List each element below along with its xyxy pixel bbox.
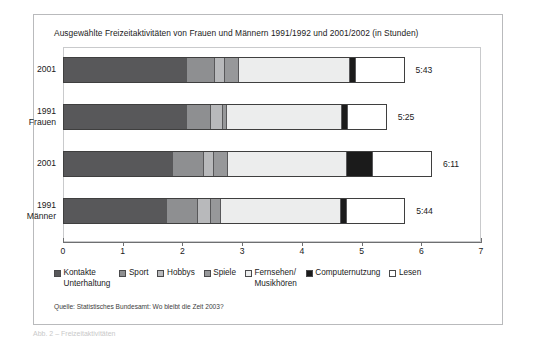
legend-swatch-icon [204,270,211,277]
bar-segment[interactable] [64,152,173,176]
bar-total-label: 5:44 [416,206,433,216]
y-axis-labels: 20011991Frauen20011991Männer [5,47,60,242]
legend-item[interactable]: Sport [119,268,148,279]
legend-item[interactable]: Spiele [204,268,236,279]
bar-segment[interactable] [356,58,403,82]
bar-segment[interactable] [211,105,223,129]
legend-item[interactable]: Computernutzung [306,268,381,279]
legend-item[interactable]: Hobbys [157,268,194,279]
y-axis-label: 2001 [37,158,56,169]
bar-segment[interactable] [214,152,227,176]
y-axis-label: 1991Männer [27,200,56,221]
bar-segment[interactable] [173,152,204,176]
bar-segment[interactable] [64,199,167,223]
x-axis-tick-label: 6 [419,246,424,256]
x-axis-tick-label: 7 [479,246,484,256]
x-axis-tick-label: 3 [240,246,245,256]
x-axis-tick-label: 1 [120,246,125,256]
bar-segment[interactable] [64,58,187,82]
x-axis-tick-label: 2 [180,246,185,256]
bar-row: 5:44 [63,198,481,224]
y-axis-label-line: Männer [27,211,56,222]
x-axis-tick-label: 4 [299,246,304,256]
legend-swatch-icon [245,270,252,277]
legend-label: Spiele [213,268,236,279]
legend-label: Hobbys [167,268,195,279]
x-axis-line [63,242,481,243]
bar-segment[interactable] [239,58,350,82]
figure-container: Ausgewählte Freizeitaktivitäten von Frau… [33,14,503,325]
bar-row: 5:43 [63,57,481,83]
stacked-bar[interactable] [63,151,432,177]
y-axis-label-line: Frauen [29,117,56,128]
bar-segment[interactable] [187,58,215,82]
x-axis-tick-label: 5 [359,246,364,256]
bar-segment[interactable] [204,152,214,176]
bar-segment[interactable] [347,152,373,176]
plot-area: 5:435:256:115:44 [63,47,481,242]
stacked-bar[interactable] [63,57,405,83]
legend-item[interactable]: Kontakte Unterhaltung [54,268,110,289]
legend-item[interactable]: Fernsehen/ Musikhören [245,268,297,289]
legend-label: Sport [129,268,149,279]
legend-swatch-icon [389,270,396,277]
legend-swatch-icon [157,270,164,277]
legend-item[interactable]: Lesen [389,268,421,279]
bar-row: 6:11 [63,151,481,177]
stacked-bar[interactable] [63,104,387,130]
legend-swatch-icon [119,270,126,277]
y-axis-label-line: 1991 [27,200,56,211]
x-axis-tick-labels: 01234567 [63,246,481,260]
legend-label: Fernsehen/ Musikhören [255,268,297,289]
bar-segment[interactable] [221,199,341,223]
x-axis-tick [481,238,482,243]
legend-swatch-icon [306,270,313,277]
bar-segment[interactable] [167,199,198,223]
bar-segment[interactable] [198,199,211,223]
legend-label: Lesen [399,268,421,279]
x-axis-tick-label: 0 [61,246,66,256]
chart-title: Ausgewählte Freizeitaktivitäten von Frau… [54,28,484,38]
source-note: Quelle: Statistisches Bundesamt: Wo blei… [54,303,224,310]
bar-segment[interactable] [187,105,211,129]
chart-legend: Kontakte UnterhaltungSportHobbysSpieleFe… [54,268,494,294]
legend-label: Computernutzung [315,268,380,279]
bar-segment[interactable] [225,58,238,82]
bar-segment[interactable] [227,105,342,129]
legend-label: Kontakte Unterhaltung [64,268,111,289]
y-axis-label-line: 1991 [29,106,56,117]
bar-segment[interactable] [373,152,421,176]
figure-caption: Abb. 2 – Freizeitaktivitäten [33,330,116,337]
legend-swatch-icon [54,270,61,277]
bar-segment[interactable] [64,105,187,129]
bar-total-label: 5:25 [398,112,415,122]
y-axis-label: 1991Frauen [29,106,56,127]
bar-segment[interactable] [211,199,222,223]
y-axis-label-line: 2001 [37,158,56,169]
bar-total-label: 6:11 [443,159,459,169]
x-axis-tick [63,238,64,243]
bar-segment[interactable] [347,199,405,223]
y-axis-label: 2001 [37,64,56,75]
bar-segment[interactable] [215,58,225,82]
bar-row: 5:25 [63,104,481,130]
y-axis-label-line: 2001 [37,64,56,75]
bar-total-label: 5:43 [416,65,433,75]
stacked-bar[interactable] [63,198,405,224]
bar-segment[interactable] [348,105,386,129]
bar-segment[interactable] [228,152,347,176]
